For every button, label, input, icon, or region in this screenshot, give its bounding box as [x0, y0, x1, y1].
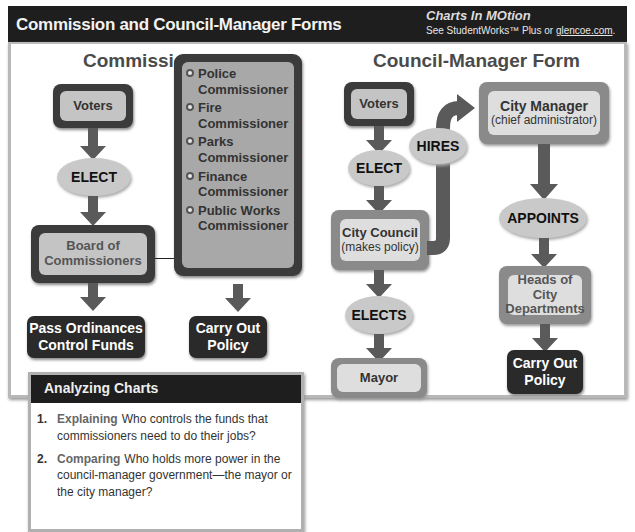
council-voters-label: Voters [351, 89, 407, 119]
bullet-icon [186, 69, 194, 77]
arrow-down-icon [530, 144, 558, 200]
commissioner-label: FireCommissioner [198, 100, 288, 131]
mayor-label: Mayor [337, 364, 421, 392]
commissioner-line2: Commissioner [198, 82, 288, 97]
commissioner-label: FinanceCommissioner [198, 169, 288, 200]
result-line1: Pass Ordinances [29, 320, 143, 336]
city-council-box: City Council (makes policy) [331, 210, 429, 270]
analyzing-charts-title: Analyzing Charts [31, 375, 301, 403]
diagram-frame: Commission Form Voters ELECT Board of Co… [8, 42, 627, 398]
city-manager-subtitle: (chief administrator) [491, 114, 597, 128]
bullet-icon [186, 206, 194, 214]
commissioner-item-fire: FireCommissioner [186, 100, 292, 131]
board-line1: Board of [66, 239, 119, 254]
heads-line1: Heads of City [508, 273, 582, 303]
commissioner-item-parks: ParksCommissioner [186, 134, 292, 165]
arrow-down-icon [531, 238, 557, 268]
commissioner-label: ParksCommissioner [198, 134, 288, 165]
arrow-down-icon [80, 196, 106, 226]
subtitle-period: . [613, 25, 616, 36]
board-of-commissioners-box: Board of Commissioners [31, 225, 155, 283]
commission-voters-box: Voters [53, 84, 133, 128]
header-subtitle: See StudentWorks™ Plus or glencoe.com. [426, 25, 615, 36]
commissioner-label: Public WorksCommissioner [198, 203, 288, 234]
question-item: 2. ComparingWho holds more power in the … [31, 451, 301, 501]
commission-voters-label: Voters [60, 91, 126, 121]
commissioner-item-public-works: Public WorksCommissioner [186, 203, 292, 234]
council-manager-form-title: Council-Manager Form [373, 50, 580, 72]
council-voters-box: Voters [344, 82, 414, 126]
result-line2: Policy [524, 372, 565, 388]
city-manager-label: City Manager (chief administrator) [488, 91, 600, 135]
commission-elect-oval: ELECT [57, 158, 131, 196]
commissioner-line1: Parks [198, 134, 233, 149]
appoints-oval: APPOINTS [499, 198, 587, 238]
board-of-commissioners-label: Board of Commissioners [39, 233, 147, 275]
subtitle-text: See StudentWorks™ Plus or [426, 25, 556, 36]
question-number: 2. [37, 451, 47, 468]
question-item: 1. ExplainingWho controls the funds that… [31, 411, 301, 445]
heads-of-departments-box: Heads of City Departments [499, 266, 591, 324]
council-carry-out-policy-box: Carry OutPolicy [507, 350, 583, 394]
arrow-down-icon [532, 324, 558, 352]
result-line2: Policy [207, 337, 248, 353]
hires-oval: HIRES [409, 128, 467, 164]
city-manager-title: City Manager [500, 98, 588, 114]
commissioners-list: PoliceCommissioner FireCommissioner Park… [182, 62, 294, 268]
analyzing-charts-panel: Analyzing Charts 1. ExplainingWho contro… [28, 372, 304, 532]
commissioner-item-police: PoliceCommissioner [186, 66, 292, 97]
heads-line2: Departments [505, 302, 584, 317]
bullet-icon [186, 172, 194, 180]
board-line2: Commissioners [44, 254, 142, 269]
result-line1: Carry Out [513, 355, 578, 371]
arrow-down-icon [366, 270, 392, 298]
charts-in-motion-logo: Charts In MOtion [426, 8, 531, 23]
hires-curved-arrow-icon [427, 88, 477, 260]
heads-of-departments-label: Heads of City Departments [508, 275, 582, 315]
commissioner-line2: Commissioner [198, 218, 288, 233]
commissioner-line2: Commissioner [198, 184, 288, 199]
council-elect-oval: ELECT [348, 150, 410, 186]
city-council-label: City Council (makes policy) [340, 219, 420, 261]
arrow-down-icon [80, 283, 106, 311]
bullet-icon [186, 137, 194, 145]
question-number: 1. [37, 411, 47, 428]
glencoe-link[interactable]: glencoe.com [556, 25, 613, 36]
pass-ordinances-box: Pass OrdinancesControl Funds [27, 316, 145, 358]
commissioner-line1: Police [198, 66, 236, 81]
city-council-subtitle: (makes policy) [341, 241, 418, 255]
page-title: Commission and Council-Manager Forms [16, 15, 341, 35]
commissioner-line2: Commissioner [198, 150, 288, 165]
question-keyword: Explaining [57, 412, 118, 426]
question-keyword: Comparing [57, 452, 120, 466]
city-council-title: City Council [342, 226, 418, 241]
arrow-down-icon [225, 284, 251, 312]
mayor-box: Mayor [331, 358, 427, 398]
city-manager-box: City Manager (chief administrator) [479, 82, 609, 144]
commissioner-line1: Finance [198, 169, 247, 184]
header-bar: Commission and Council-Manager Forms Cha… [8, 6, 627, 42]
commission-carry-out-policy-box: Carry OutPolicy [189, 316, 267, 358]
elects-oval: ELECTS [345, 296, 413, 334]
commissioner-line1: Public Works [198, 203, 280, 218]
bullet-icon [186, 103, 194, 111]
commissioner-line1: Fire [198, 100, 222, 115]
arrow-down-icon [80, 128, 106, 160]
result-line2: Control Funds [38, 337, 134, 353]
commissioner-label: PoliceCommissioner [198, 66, 288, 97]
result-line1: Carry Out [196, 320, 261, 336]
commissioners-list-box: PoliceCommissioner FireCommissioner Park… [174, 54, 302, 276]
commissioner-line2: Commissioner [198, 116, 288, 131]
commissioner-item-finance: FinanceCommissioner [186, 169, 292, 200]
